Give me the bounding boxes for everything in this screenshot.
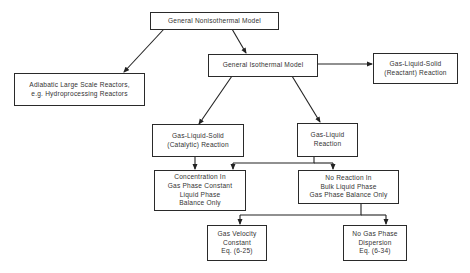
node-general-nonisothermal-model: General Nonisothermal Model [150,12,279,30]
node-gas-liquid-solid-catalytic: Gas-Liquid-Solid (Catalytic) Reaction [152,124,244,157]
arrow-nonisothermal-to-adiabatic [124,29,164,72]
node-gas-liquid-solid-reactant: Gas-Liquid-Solid (Reactant) Reaction [373,53,458,84]
node-label: General Isothermal Model [223,61,304,70]
node-gas-velocity-constant: Gas Velocity Constant Eq. (6-25) [207,225,267,261]
node-label: General Nonisothermal Model [168,17,261,26]
node-label: No Gas Phase Dispersion Eq. (6-34) [352,230,397,256]
node-label: Gas-Liquid-Solid (Catalytic) Reaction [167,132,229,149]
node-concentration-constant: Concentration In Gas Phase Constant Liqu… [154,170,246,211]
arrow-isothermal-to-gas-liquid [292,76,320,122]
arrow-isothermal-to-catalytic [199,76,232,124]
connector-no-reaction-split [240,203,361,215]
node-gas-liquid-reaction: Gas-Liquid Reaction [297,123,358,157]
node-no-gas-phase-dispersion: No Gas Phase Dispersion Eq. (6-34) [343,225,407,261]
node-adiabatic-reactors: Adiabatic Large Scale Reactors, e.g. Hyd… [14,73,145,106]
arrow-nonisothermal-to-isothermal [232,29,246,53]
node-label: Adiabatic Large Scale Reactors, e.g. Hyd… [29,81,129,98]
connector-gas-liquid-split [233,157,314,163]
node-label: No Reaction In Bulk Liquid Phase Gas Pha… [309,174,387,200]
node-label: Gas Velocity Constant Eq. (6-25) [217,230,256,256]
node-label: Concentration In Gas Phase Constant Liqu… [168,173,232,207]
node-general-isothermal-model: General Isothermal Model [208,54,318,77]
node-label: Gas-Liquid-Solid (Reactant) Reaction [384,60,446,77]
node-no-reaction-bulk-liquid: No Reaction In Bulk Liquid Phase Gas Pha… [298,170,399,204]
node-label: Gas-Liquid Reaction [311,131,345,148]
